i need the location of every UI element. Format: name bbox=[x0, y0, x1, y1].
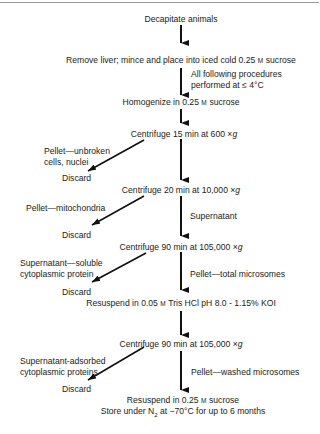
step-text: sucrose bbox=[207, 97, 239, 107]
step-text: Centrifuge 90 min at 105,000 bbox=[119, 242, 232, 252]
discard-3: Discard bbox=[62, 287, 91, 297]
pellet-mitochondria-label: Pellet—mitochondria bbox=[26, 203, 105, 213]
supernatant-soluble-label-1: Supernatant—soluble bbox=[20, 258, 103, 268]
pellet-unbroken-label-1: Pellet—unbroken bbox=[44, 146, 110, 156]
step-text: sucrose bbox=[263, 55, 295, 65]
supernatant-adsorbed-label-2: cytoplasmic proteins bbox=[20, 367, 98, 377]
step-centrifuge-600: Centrifuge 15 min at 600 ×g bbox=[131, 129, 237, 139]
step-text: Store under N bbox=[101, 406, 155, 416]
step-text: Resuspend in 0.25 bbox=[127, 395, 201, 405]
step-remove-liver: Remove liver; mince and place into iced … bbox=[66, 55, 296, 66]
step-centrifuge-105000-a: Centrifuge 90 min at 105,000 ×g bbox=[119, 242, 242, 252]
g-unit: g bbox=[232, 129, 237, 139]
step-text: Centrifuge 20 min at 10,000 bbox=[122, 185, 230, 195]
step-text: Resuspend in 0.05 bbox=[86, 298, 160, 308]
g-unit: g bbox=[238, 339, 243, 349]
step-text: Tris HCl pH 8.0 - 1.15% KOI bbox=[166, 298, 276, 308]
temp-note-line-1: All following procedures bbox=[191, 69, 282, 79]
step-homogenize: Homogenize in 0.25 M sucrose bbox=[122, 97, 239, 108]
step-text: Homogenize in 0.25 bbox=[122, 97, 201, 107]
g-unit: g bbox=[235, 185, 240, 195]
step-decapitate: Decapitate animals bbox=[144, 14, 217, 24]
pellet-washed-microsomes-label: Pellet—washed microsomes bbox=[191, 367, 299, 377]
discard-4: Discard bbox=[62, 384, 91, 394]
pellet-total-microsomes-label: Pellet—total microsomes bbox=[190, 269, 285, 279]
step-resuspend-tris: Resuspend in 0.05 M Tris HCl pH 8.0 - 1.… bbox=[86, 298, 276, 309]
step-centrifuge-10000: Centrifuge 20 min at 10,000 ×g bbox=[122, 185, 240, 195]
step-text: Remove liver; mince and place into iced … bbox=[66, 55, 258, 65]
step-store: Store under N2 at −70°C for up to 6 mont… bbox=[101, 406, 266, 420]
supernatant-soluble-label-2: cytoplasmic protein bbox=[20, 269, 94, 279]
supernatant-adsorbed-label-1: Supernatant-adsorbed bbox=[20, 356, 106, 366]
temp-note-line-2: performed at ≤ 4°C bbox=[191, 80, 264, 90]
discard-2: Discard bbox=[62, 230, 91, 240]
step-text: sucrose bbox=[207, 395, 239, 405]
step-text: at −70°C for up to 6 months bbox=[158, 406, 266, 416]
step-text: Centrifuge 15 min at 600 bbox=[131, 129, 228, 139]
g-unit: g bbox=[238, 242, 243, 252]
step-text: Centrifuge 90 min at 105,000 bbox=[119, 339, 232, 349]
step-centrifuge-105000-b: Centrifuge 90 min at 105,000 ×g bbox=[119, 339, 242, 349]
step-resuspend-sucrose: Resuspend in 0.25 M sucrose bbox=[127, 395, 239, 406]
pellet-unbroken-label-2: cells, nuclei bbox=[44, 157, 88, 167]
discard-1: Discard bbox=[62, 173, 91, 183]
supernatant-label: Supernatant bbox=[190, 211, 237, 221]
